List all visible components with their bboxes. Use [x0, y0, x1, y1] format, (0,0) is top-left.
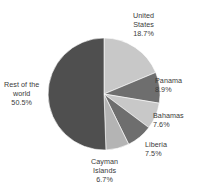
- pie-label-cayman-islands-line1: Cayman: [91, 157, 118, 166]
- pie-label-rest-of-the-world: Rest of the world 50.5%: [4, 80, 39, 108]
- pie-label-cayman-islands-value: 6.7%: [91, 175, 118, 184]
- pie-label-liberia: Liberia 7.5%: [145, 140, 167, 158]
- pie-label-rest-of-the-world-line1: Rest of the: [4, 80, 39, 89]
- pie-label-liberia-value: 7.5%: [145, 149, 167, 158]
- pie-label-cayman-islands: Cayman Islands 6.7%: [91, 157, 118, 185]
- pie-label-united-states-line1: United: [133, 11, 154, 20]
- pie-slice-group: [48, 38, 160, 150]
- pie-label-united-states: United States 18.7%: [133, 11, 154, 39]
- pie-label-bahamas: Bahamas 7.6%: [153, 111, 184, 129]
- pie-label-cayman-islands-line2: Islands: [91, 166, 118, 175]
- pie-label-liberia-line1: Liberia: [145, 140, 167, 149]
- pie-slice-rest-of-the-world: [48, 38, 106, 150]
- pie-label-bahamas-value: 7.6%: [153, 120, 184, 129]
- pie-label-rest-of-the-world-value: 50.5%: [4, 98, 39, 107]
- pie-label-panama-value: 8.9%: [155, 85, 182, 94]
- pie-label-united-states-value: 18.7%: [133, 29, 154, 38]
- pie-label-panama-line1: Panama: [155, 76, 182, 85]
- pie-label-panama: Panama 8.9%: [155, 76, 182, 94]
- pie-chart-figure: United States 18.7% Panama 8.9% Bahamas …: [0, 0, 209, 196]
- pie-label-bahamas-line1: Bahamas: [153, 111, 184, 120]
- pie-label-united-states-line2: States: [133, 20, 154, 29]
- pie-label-rest-of-the-world-line2: world: [4, 89, 39, 98]
